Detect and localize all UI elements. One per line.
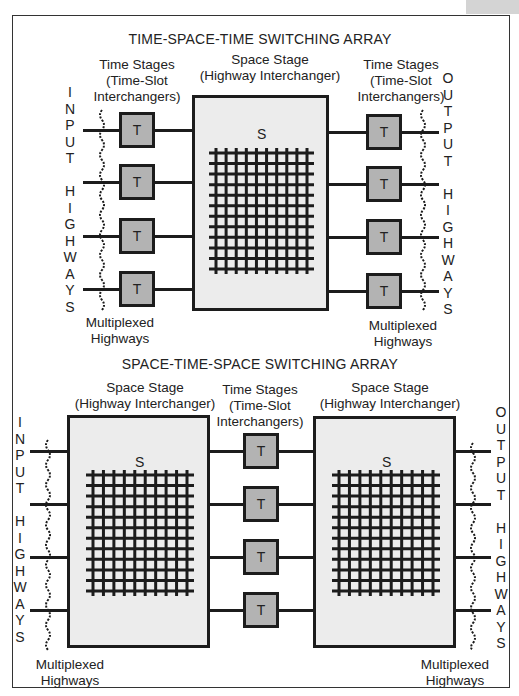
vertical-letter: W xyxy=(13,579,27,596)
sts-right-mux-label: Multiplexed Highways xyxy=(405,657,505,689)
sts-time-stage: T xyxy=(243,592,279,628)
tst-left-time-stage: T xyxy=(119,112,155,148)
tst-left-time-label: Time Stages (Time-Slot Interchangers) xyxy=(82,57,192,105)
tst-right-mux-marker-icon xyxy=(417,110,429,310)
tst-left-mux-label: Multiplexed Highways xyxy=(75,315,165,347)
vertical-letter: G xyxy=(63,216,77,233)
vertical-letter: I xyxy=(13,530,27,547)
sts-right-space-symbol: S xyxy=(382,454,391,470)
vertical-letter: W xyxy=(494,586,508,603)
tst-right-mux-label: Multiplexed Highways xyxy=(358,318,448,350)
tst-left-time-stage: T xyxy=(119,271,155,307)
vertical-letter: S xyxy=(13,629,27,646)
vertical-letter: P xyxy=(13,447,27,464)
vertical-letter: H xyxy=(441,186,455,203)
tst-space-symbol: S xyxy=(257,126,266,142)
tst-right-link-line xyxy=(328,236,367,239)
vertical-letter: T xyxy=(63,150,77,167)
sts-time-stage: T xyxy=(243,433,279,469)
vertical-letter: A xyxy=(494,602,508,619)
sts-input-highways-label: INPUT HIGHWAYS xyxy=(13,414,27,645)
sts-right-crossbar-grid-icon xyxy=(332,470,440,596)
sts-left-link-line xyxy=(209,450,243,453)
vertical-letter xyxy=(13,497,27,514)
sts-title: SPACE-TIME-SPACE SWITCHING ARRAY xyxy=(120,356,400,372)
vertical-letter: S xyxy=(494,635,508,652)
tst-right-link-line xyxy=(328,131,367,134)
vertical-letter: G xyxy=(441,219,455,236)
vertical-letter: U xyxy=(63,134,77,151)
vertical-letter: I xyxy=(441,202,455,219)
sts-left-mux-marker-icon xyxy=(42,440,54,650)
vertical-letter: T xyxy=(441,103,455,120)
sts-left-link-line xyxy=(209,556,243,559)
tst-right-time-stage: T xyxy=(366,219,402,255)
vertical-letter: H xyxy=(494,520,508,537)
sts-time-label: Time Stages (Time-Slot Interchangers) xyxy=(205,382,315,430)
tst-left-link-line xyxy=(155,129,193,132)
sts-time-stage: T xyxy=(243,539,279,575)
sts-left-link-line xyxy=(209,503,243,506)
vertical-letter xyxy=(494,503,508,520)
sts-right-link-line xyxy=(279,609,314,612)
vertical-letter: H xyxy=(494,569,508,586)
vertical-letter: U xyxy=(494,421,508,438)
tst-input-highways-label: INPUT HIGHWAYS xyxy=(63,84,77,315)
tst-output-highways-label: OUTPUT HIGHWAYS xyxy=(441,70,455,318)
vertical-letter: P xyxy=(494,454,508,471)
vertical-letter: W xyxy=(63,249,77,266)
vertical-letter: Y xyxy=(441,285,455,302)
vertical-letter: Y xyxy=(494,619,508,636)
tst-left-link-line xyxy=(155,235,193,238)
tst-right-time-stage: T xyxy=(366,114,402,150)
tst-right-time-stage: T xyxy=(366,166,402,202)
tst-left-time-stage: T xyxy=(119,218,155,254)
vertical-letter: I xyxy=(63,200,77,217)
vertical-letter xyxy=(441,169,455,186)
vertical-letter: G xyxy=(494,553,508,570)
vertical-letter: N xyxy=(13,431,27,448)
vertical-letter: T xyxy=(494,437,508,454)
vertical-letter: H xyxy=(63,183,77,200)
tst-left-link-line xyxy=(155,181,193,184)
vertical-letter: O xyxy=(441,70,455,87)
vertical-letter: S xyxy=(63,299,77,316)
corner-tab xyxy=(466,0,519,14)
tst-left-link-line xyxy=(155,288,193,291)
vertical-letter: W xyxy=(441,252,455,269)
sts-left-space-label: Space Stage (Highway Interchanger) xyxy=(65,380,225,412)
vertical-letter: U xyxy=(494,470,508,487)
sts-right-space-label: Space Stage (Highway Interchanger) xyxy=(310,380,470,412)
vertical-letter: H xyxy=(13,513,27,530)
sts-left-space-symbol: S xyxy=(135,454,144,470)
vertical-letter: P xyxy=(441,120,455,137)
sts-right-link-line xyxy=(279,503,314,506)
vertical-letter xyxy=(63,167,77,184)
vertical-letter: A xyxy=(13,596,27,613)
vertical-letter: T xyxy=(494,487,508,504)
sts-right-link-line xyxy=(279,450,314,453)
vertical-letter: I xyxy=(494,536,508,553)
vertical-letter: I xyxy=(63,84,77,101)
vertical-letter: H xyxy=(441,235,455,252)
sts-left-link-line xyxy=(209,609,243,612)
vertical-letter: I xyxy=(13,414,27,431)
tst-right-time-stage: T xyxy=(366,273,402,309)
vertical-letter: H xyxy=(63,233,77,250)
sts-right-link-line xyxy=(279,556,314,559)
sts-left-crossbar-grid-icon xyxy=(86,470,194,596)
sts-output-highways-label: OUTPUT HIGHWAYS xyxy=(494,404,508,652)
tst-title: TIME-SPACE-TIME SWITCHING ARRAY xyxy=(120,31,400,47)
vertical-letter: T xyxy=(13,480,27,497)
vertical-letter: Y xyxy=(63,282,77,299)
sts-left-mux-label: Multiplexed Highways xyxy=(20,657,120,689)
tst-left-mux-marker-icon xyxy=(96,110,108,310)
tst-left-time-stage: T xyxy=(119,164,155,200)
vertical-letter: U xyxy=(441,136,455,153)
vertical-letter: S xyxy=(441,301,455,318)
vertical-letter: G xyxy=(13,546,27,563)
vertical-letter: O xyxy=(494,404,508,421)
tst-right-link-line xyxy=(328,290,367,293)
vertical-letter: P xyxy=(63,117,77,134)
vertical-letter: N xyxy=(63,101,77,118)
